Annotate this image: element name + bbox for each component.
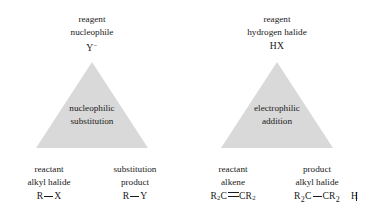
- formula-charge-minus: −: [93, 42, 97, 50]
- reagent-line-2: nucleophile: [7, 26, 177, 39]
- reaction-type-line-2: addition: [221, 115, 333, 128]
- triangle-nucleophilic-substitution: nucleophilic substitution: [36, 62, 148, 148]
- reagent-label-right: reagent hydrogen halide HX: [192, 13, 362, 52]
- single-bond-icon: [130, 196, 139, 197]
- panel-nucleophilic-substitution: reagent nucleophile Y− nucleophilic subs…: [0, 0, 184, 224]
- reactant-line-1: reactant: [3, 163, 95, 176]
- formula-atom-x: X: [54, 190, 61, 201]
- formula-atom-y: Y: [140, 190, 147, 201]
- reagent-formula-nucleophile: Y−: [7, 40, 177, 55]
- product-line-2: alkyl halide: [271, 176, 363, 189]
- reaction-type-line-1: electrophilic: [221, 102, 333, 115]
- reaction-type-line-1: nucleophilic: [36, 102, 148, 115]
- product-line-1: substitution: [89, 163, 181, 176]
- panel-electrophilic-addition: reagent hydrogen halide HX electrophilic…: [185, 0, 369, 224]
- formula-atom-c: C: [220, 190, 227, 201]
- formula-atom-h: H: [351, 190, 358, 203]
- formula-atom-cr: CR: [323, 190, 336, 201]
- triangle-electrophilic-addition: electrophilic addition: [221, 62, 333, 148]
- product-formula-substitution: RY: [89, 190, 181, 203]
- reaction-type-label-right: electrophilic addition: [221, 102, 333, 127]
- formula-atom-r: R: [123, 190, 130, 201]
- reagent-line-1: reagent: [7, 13, 177, 26]
- reagent-line-2: hydrogen halide: [192, 26, 362, 39]
- reaction-type-label-left: nucleophilic substitution: [36, 102, 148, 127]
- formula-atom-r: R: [294, 190, 301, 201]
- formula-sub-2: 2: [252, 194, 255, 201]
- structure-backbone: R2CCR2: [294, 190, 340, 201]
- product-label-right: product alkyl halide R2CCR2 H X: [271, 163, 363, 206]
- reaction-type-line-2: substitution: [36, 115, 148, 128]
- reactant-label-right: reactant alkene R2CCR2: [187, 163, 279, 205]
- single-bond-icon: [313, 196, 322, 197]
- formula-atom-c: C: [305, 190, 312, 201]
- reactant-formula-alkene: R2CCR2: [187, 190, 279, 205]
- reagent-line-1: reagent: [192, 13, 362, 26]
- reactant-formula-alkyl-halide: RX: [3, 190, 95, 203]
- reagent-label-left: reagent nucleophile Y−: [7, 13, 177, 54]
- double-bond-icon: [228, 192, 239, 197]
- reagent-formula-hydrogen-halide: HX: [192, 40, 362, 53]
- reactant-line-2: alkene: [187, 176, 279, 189]
- product-label-left: substitution product RY: [89, 163, 181, 202]
- single-bond-icon: [44, 196, 53, 197]
- formula-atom-cr: CR: [239, 190, 252, 201]
- product-structure-addition: R2CCR2 H X: [294, 190, 340, 207]
- product-line-2: product: [89, 176, 181, 189]
- product-line-1: product: [271, 163, 363, 176]
- reactant-line-2: alkyl halide: [3, 176, 95, 189]
- reactant-label-left: reactant alkyl halide RX: [3, 163, 95, 202]
- formula-sub-2: 2: [336, 195, 340, 204]
- reaction-comparison-figure: reagent nucleophile Y− nucleophilic subs…: [0, 0, 369, 224]
- reactant-line-1: reactant: [187, 163, 279, 176]
- formula-atom-r: R: [37, 190, 44, 201]
